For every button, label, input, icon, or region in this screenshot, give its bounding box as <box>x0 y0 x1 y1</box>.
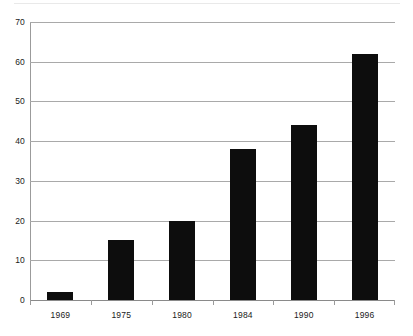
y-tick-label-40: 40 <box>15 136 25 146</box>
x-tick-mark <box>152 300 153 305</box>
bar-1990 <box>291 125 317 300</box>
y-tick-label-50: 50 <box>15 96 25 106</box>
bar-slot <box>30 22 91 300</box>
bar-1984 <box>230 149 256 300</box>
x-tick-label-1980: 1980 <box>152 310 213 320</box>
y-tick-label-30: 30 <box>15 176 25 186</box>
x-tick-mark <box>213 300 214 305</box>
y-tick-label-10: 10 <box>15 255 25 265</box>
x-tick-label-1996: 1996 <box>334 310 395 320</box>
bar-1996 <box>352 54 378 300</box>
x-tick-label-1975: 1975 <box>91 310 152 320</box>
x-tick-mark <box>394 300 395 305</box>
y-tick-label-0: 0 <box>20 295 25 305</box>
x-axis-tick-marks <box>30 300 395 305</box>
bar-1969 <box>47 292 73 300</box>
x-tick-mark <box>334 300 335 305</box>
x-tick-label-1990: 1990 <box>273 310 334 320</box>
y-tick-label-70: 70 <box>15 17 25 27</box>
x-tick-mark <box>91 300 92 305</box>
top-rule-artifact <box>14 3 400 4</box>
y-axis-tick-labels: 010203040506070 <box>0 0 25 336</box>
plot-area <box>30 22 395 300</box>
x-tick-label-1984: 1984 <box>213 310 274 320</box>
y-tick-label-20: 20 <box>15 216 25 226</box>
bar-slot <box>273 22 334 300</box>
bar-slot <box>334 22 395 300</box>
bar-slot <box>91 22 152 300</box>
x-axis-tick-labels: 196919751980198419901996 <box>30 310 395 330</box>
bar-slot <box>152 22 213 300</box>
bar-1975 <box>108 240 134 300</box>
bar-slot <box>213 22 274 300</box>
x-tick-label-1969: 1969 <box>30 310 91 320</box>
x-tick-mark <box>273 300 274 305</box>
y-tick-label-60: 60 <box>15 57 25 67</box>
x-tick-mark <box>30 300 31 305</box>
bar-chart: 010203040506070 196919751980198419901996 <box>0 0 413 336</box>
bar-1980 <box>169 221 195 300</box>
